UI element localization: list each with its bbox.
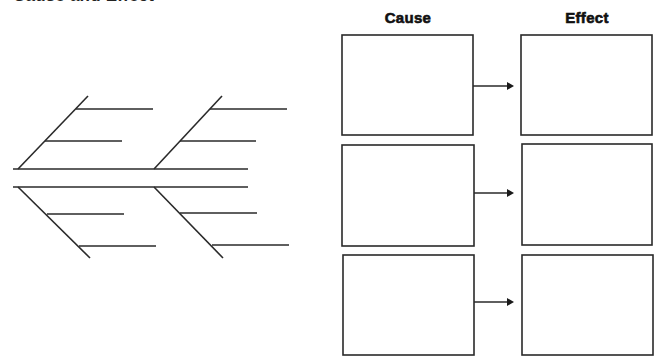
cause-effect-diagram — [0, 0, 664, 364]
cause-effect-pair-2 — [342, 144, 652, 246]
effect-box[interactable] — [522, 144, 652, 245]
effect-box[interactable] — [522, 255, 653, 355]
cause-box[interactable] — [342, 35, 473, 135]
fishbone-bone-upper-right — [154, 96, 222, 169]
arrow-right-icon — [507, 298, 514, 306]
arrow-right-icon — [507, 189, 514, 197]
fishbone-bone-upper-left — [18, 96, 88, 169]
fishbone-bone-lower-right — [154, 187, 223, 258]
cause-box[interactable] — [343, 255, 474, 355]
cause-box[interactable] — [342, 145, 474, 246]
fishbone-bone-lower-left — [18, 187, 90, 258]
cause-effect-pair-1 — [342, 35, 652, 135]
cause-effect-pair-3 — [343, 255, 653, 355]
effect-box[interactable] — [521, 35, 652, 135]
arrow-right-icon — [507, 82, 514, 90]
fishbone-diagram — [13, 96, 289, 258]
